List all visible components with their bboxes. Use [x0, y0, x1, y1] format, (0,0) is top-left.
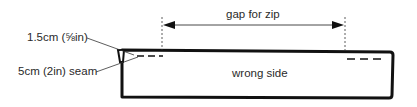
sewing-diagram	[0, 0, 417, 107]
seam-label: 5cm (2in) seam	[18, 66, 97, 78]
arrow-head-right-icon	[332, 21, 344, 29]
folded-edge-flap	[118, 50, 124, 62]
seam-allowance-label: 1.5cm (⅝in)	[27, 32, 88, 44]
gap-label: gap for zip	[226, 9, 280, 21]
panel-side-label: wrong side	[232, 68, 288, 80]
arrow-head-left-icon	[163, 21, 175, 29]
leader-line-seam-allowance	[87, 38, 134, 55]
